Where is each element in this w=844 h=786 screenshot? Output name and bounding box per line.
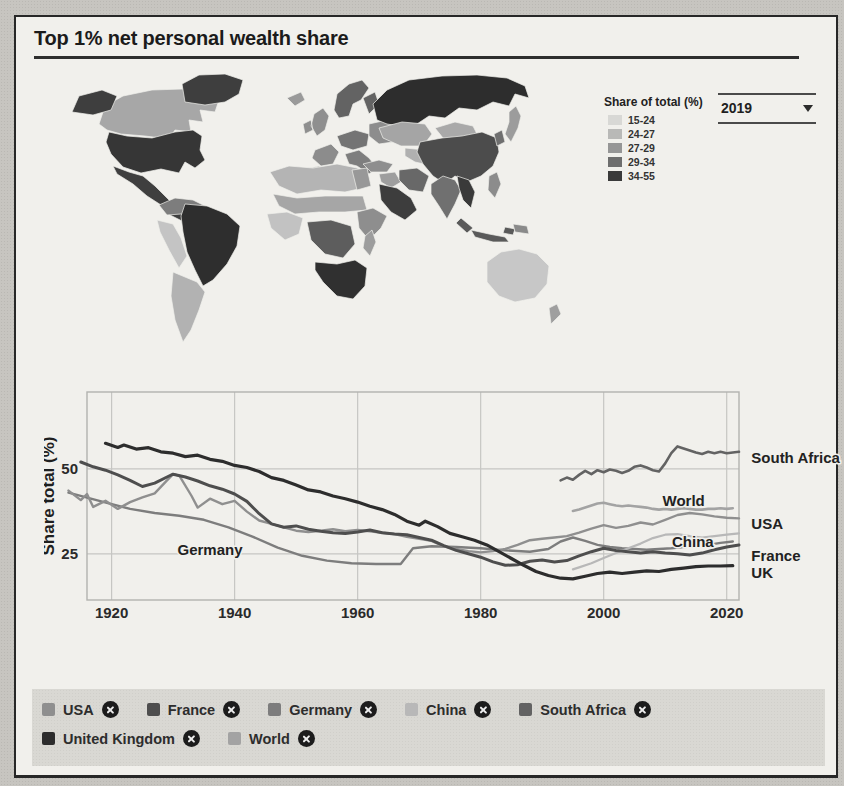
world-choropleth-map [57,72,577,347]
year-dropdown[interactable]: 2019 [718,93,816,124]
map-legend-range-label: 24-27 [628,128,655,140]
map-legend-range-label: 34-55 [628,170,655,182]
chart-label-usa: USA [751,515,783,532]
map-legend-swatch [608,129,622,139]
country-chip-germany[interactable]: Germany [268,701,377,718]
map-region-west-africa[interactable] [267,212,303,240]
map-region-central-europe[interactable] [337,130,369,150]
map-region-new-zealand[interactable] [549,304,561,324]
x-tick-label: 1920 [95,604,128,621]
map-legend-item: 29-34 [608,156,722,168]
country-chip-china[interactable]: China [405,701,491,718]
chart-label-germany: Germany [177,541,243,558]
y-axis-title: Share total (%) [44,436,58,555]
map-legend: Share of total (%) 15-2424-2727-2929-343… [604,95,722,184]
remove-country-icon[interactable] [183,730,200,747]
y-tick-label: 50 [61,460,78,477]
y-tick-label: 25 [61,545,78,562]
country-swatch [268,703,281,716]
map-legend-swatch [608,171,622,181]
map-region-iceland[interactable] [287,92,305,106]
country-swatch [42,732,55,745]
scanned-page: Top 1% net personal wealth share [0,0,844,786]
map-region-india[interactable] [431,176,461,219]
remove-country-icon[interactable] [634,701,651,718]
remove-country-icon[interactable] [298,730,315,747]
x-tick-label: 1940 [218,604,251,621]
plot-frame [87,392,739,600]
series-line-south-africa [561,446,739,480]
chart-label-france: France [751,547,800,564]
x-tick-label: 1980 [464,604,497,621]
map-region-scandinavia[interactable] [334,80,379,118]
map-legend-title: Share of total (%) [604,95,722,109]
remove-country-icon[interactable] [360,701,377,718]
series-line-usa [69,474,740,552]
map-region-sahel[interactable] [273,194,367,214]
map-region-papua[interactable] [513,224,529,234]
map-legend-item: 27-29 [608,142,722,154]
x-tick-label: 2000 [587,604,620,621]
x-tick-label: 1960 [341,604,374,621]
country-swatch [228,732,241,745]
map-region-france[interactable] [312,144,339,166]
map-region-philippines[interactable] [488,172,501,198]
map-region-north-africa[interactable] [270,164,367,194]
map-region-japan[interactable] [505,106,521,142]
series-line-united-kingdom [106,443,733,579]
country-chip-united-kingdom[interactable]: United Kingdom [42,730,200,747]
country-label: United Kingdom [63,731,175,747]
selected-countries-panel: USAFranceGermanyChinaSouth AfricaUnited … [32,689,825,766]
country-chip-world[interactable]: World [228,730,315,747]
country-label: South Africa [540,702,626,718]
map-legend-swatch [608,143,622,153]
country-swatch [519,703,532,716]
country-swatch [147,703,160,716]
country-swatch [42,703,55,716]
chevron-down-icon [803,105,813,112]
country-chip-usa[interactable]: USA [42,701,119,718]
map-region-brazil[interactable] [181,204,240,286]
map-legend-item: 34-55 [608,170,722,182]
wealth-share-line-chart: 1920194019601980200020202550Share total … [44,375,844,627]
remove-country-icon[interactable] [474,701,491,718]
map-region-russia[interactable] [373,75,529,126]
map-region-indonesia[interactable] [456,218,515,242]
wealth-share-widget: Top 1% net personal wealth share [14,15,838,778]
country-label: USA [63,702,94,718]
map-legend-item: 24-27 [608,128,722,140]
map-region-uk-ireland[interactable] [303,108,329,136]
chart-label-world: World [663,492,705,509]
map-region-argentina[interactable] [171,272,205,342]
map-region-iran[interactable] [399,168,429,192]
map-region-greenland[interactable] [182,74,243,105]
year-dropdown-value: 2019 [721,100,752,116]
country-swatch [405,703,418,716]
country-chip-france[interactable]: France [147,701,241,718]
map-legend-range-label: 29-34 [628,156,655,168]
country-label: China [426,702,466,718]
map-legend-item: 15-24 [608,114,722,126]
country-chip-south-africa[interactable]: South Africa [519,701,651,718]
map-legend-range-label: 27-29 [628,142,655,154]
map-legend-swatch [608,157,622,167]
remove-country-icon[interactable] [102,701,119,718]
country-label: France [168,702,216,718]
page-title: Top 1% net personal wealth share [34,27,799,59]
country-label: World [249,731,290,747]
map-regions [72,74,561,342]
map-legend-swatch [608,115,622,125]
country-label: Germany [289,702,352,718]
chart-label-china: China [672,533,714,550]
x-tick-label: 2020 [710,604,743,621]
map-legend-range-label: 15-24 [628,114,655,126]
series-line-world [573,503,733,511]
map-region-australia[interactable] [487,249,549,302]
map-region-southern-africa[interactable] [315,260,367,299]
remove-country-icon[interactable] [223,701,240,718]
map-region-central-africa[interactable] [307,220,355,258]
chart-label-uk: UK [751,564,773,581]
chart-label-south-africa: South Africa [751,449,840,466]
